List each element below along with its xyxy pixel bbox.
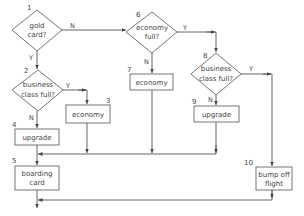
- edge-label-no: N: [208, 96, 213, 104]
- node-label: upgrade: [202, 111, 231, 119]
- node-label: bump off: [258, 171, 290, 179]
- edge-6-8: [177, 32, 216, 52]
- node-label: gold: [29, 22, 44, 30]
- process-economy-2: 7 economy: [127, 66, 173, 90]
- edge-label-yes: Y: [248, 65, 253, 73]
- node-number: 2: [24, 67, 28, 75]
- flowchart: 1 gold card? N Y 2 business class full? …: [0, 0, 304, 216]
- edge-2-3: [62, 90, 87, 104]
- edge-10-merge: [38, 190, 272, 200]
- process-economy-1: 3 economy: [66, 97, 110, 123]
- edge-label-no: N: [29, 114, 34, 122]
- node-label: business: [23, 81, 54, 89]
- node-label: economy: [72, 111, 104, 119]
- node-number: 3: [106, 97, 110, 105]
- node-label: class full?: [199, 75, 233, 83]
- decision-gold-card: 1 gold card?: [12, 4, 62, 51]
- process-upgrade-2: 9 upgrade: [192, 98, 239, 122]
- node-number: 6: [136, 11, 141, 19]
- node-label: economy: [135, 79, 167, 87]
- edge-8-10: [241, 74, 272, 166]
- node-number: 7: [127, 66, 131, 74]
- node-label: upgrade: [22, 134, 51, 142]
- edge-9-merge: [38, 122, 216, 154]
- process-bump-off-flight: 10 bump off flight: [244, 159, 292, 190]
- node-number: 4: [12, 121, 17, 129]
- edge-label-no: N: [70, 22, 75, 30]
- node-label: business: [201, 65, 232, 73]
- node-number: 5: [12, 157, 16, 165]
- node-label: card?: [27, 31, 46, 39]
- decision-economy-full: 6 economy full?: [126, 11, 177, 53]
- edge-label-no: N: [144, 58, 149, 66]
- node-number: 8: [203, 52, 207, 60]
- node-label: boarding: [21, 170, 52, 178]
- process-upgrade-1: 4 upgrade: [12, 121, 59, 145]
- edge-label-yes: Y: [65, 82, 70, 90]
- decision-business-class-full-1: 2 business class full?: [12, 67, 63, 111]
- node-number: 10: [244, 159, 253, 167]
- node-label: flight: [265, 180, 283, 188]
- node-number: 1: [27, 4, 31, 12]
- edge-label-yes: Y: [182, 24, 187, 32]
- process-boarding-card: 5 boarding card: [12, 157, 59, 190]
- node-label: full?: [145, 33, 160, 41]
- node-label: card: [29, 179, 44, 187]
- edge-label-yes: Y: [28, 54, 33, 62]
- node-number: 9: [192, 98, 196, 106]
- node-label: economy: [136, 24, 168, 32]
- decision-business-class-full-2: 8 business class full?: [191, 52, 241, 95]
- node-label: class full?: [21, 91, 55, 99]
